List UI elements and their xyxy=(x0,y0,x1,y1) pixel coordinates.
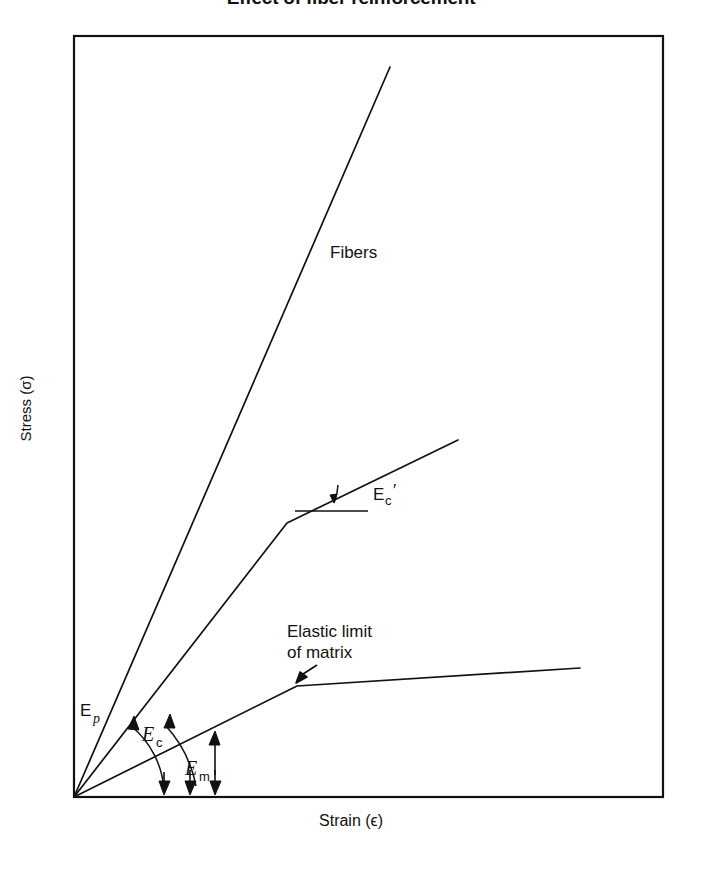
ec-prime-mark: ′ xyxy=(393,481,396,500)
ec-letter: E xyxy=(141,723,154,745)
composite-curve xyxy=(74,440,458,797)
elastic-limit-label-line1: Elastic limit xyxy=(287,622,372,641)
modulus-arrow-down-composite xyxy=(185,781,196,795)
em-label-group: E m xyxy=(184,757,210,784)
ec-prime-subscript: c xyxy=(385,493,392,508)
modulus-arrow-up-fiber xyxy=(128,716,139,730)
ec-prime-letter: E xyxy=(373,485,384,504)
fibers-curve xyxy=(74,67,390,797)
ep-subscript: p xyxy=(92,711,100,726)
stress-strain-figure: Effect of fiber reinforcement Stress (σ)… xyxy=(0,0,702,874)
em-letter: E xyxy=(184,757,197,779)
modulus-arrow-up-composite xyxy=(164,714,175,728)
ep-letter: E xyxy=(80,701,91,720)
ep-label-group: E p xyxy=(80,701,100,726)
ec-subscript: c xyxy=(156,735,163,750)
modulus-arrow-down-fiber xyxy=(159,781,170,795)
modulus-arrow-down-matrix xyxy=(210,781,221,795)
elastic-limit-label-line2: of matrix xyxy=(287,643,353,662)
elastic-limit-arrowhead xyxy=(296,672,307,683)
ec-prime-label-group: E c ′ xyxy=(373,481,396,508)
em-subscript: m xyxy=(199,769,210,784)
fibers-label: Fibers xyxy=(330,243,377,262)
ec-label-group: E c xyxy=(141,723,163,750)
plot-area: Fibers E c ′ Elastic limit of matrix xyxy=(0,0,702,874)
